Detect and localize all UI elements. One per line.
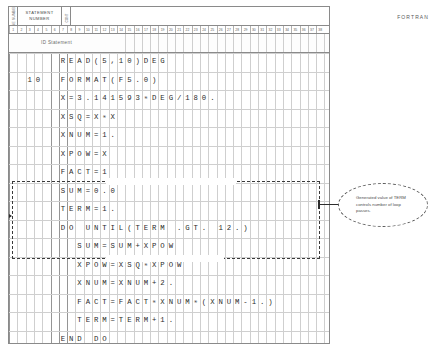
grid-column-line [258,34,259,52]
code-char: O [92,261,100,269]
code-char: 1 [100,205,108,213]
grid-column-line [192,34,193,52]
grid-column-line [225,34,226,52]
code-char: L [117,224,125,232]
code-char: M [142,316,150,324]
code-char: R [59,57,67,65]
code-char: P [67,150,75,158]
grid-row-line [9,109,329,110]
code-char: 1 [109,94,117,102]
ruler-column-number: 30 [250,27,258,33]
code-char: T [142,298,150,306]
grid-column-line [241,34,242,52]
ruler-column-number: 26 [217,27,225,33]
grid-column-line [324,34,325,52]
code-char: E [84,316,92,324]
ruler-column-number: 3 [26,27,34,33]
code-char: N [125,279,133,287]
code-char: E [150,57,158,65]
code-char: . [100,187,108,195]
ruler-column-number: 16 [134,27,142,33]
ruler-column-number: 33 [275,27,283,33]
code-char: C [134,298,142,306]
code-char: M [183,298,191,306]
grid-column-line [208,34,209,52]
grid-column-line [316,53,317,343]
code-char: A [125,298,133,306]
grid-column-line [142,34,143,52]
ruler-column-number: 20 [167,27,175,33]
code-char: = [84,187,92,195]
code-char: D [84,57,92,65]
ruler-column-number: 13 [109,27,117,33]
code-char: 1 [183,94,191,102]
grid-column-line [183,34,184,52]
grid-column-line [158,34,159,52]
header-statement-area: FORTRAN [71,6,330,26]
code-char: O [100,335,108,343]
grid-column-line [275,34,276,52]
grid-column-line [250,34,251,52]
code-char: O [67,76,75,84]
code-char: ✳ [150,298,158,305]
code-char: R [75,76,83,84]
grid-column-line [9,53,10,343]
do-loop-arrow-icon [9,214,12,218]
code-char: S [75,242,83,250]
grid-column-line [233,34,234,52]
code-char: 0 [125,57,133,65]
code-char: X [75,261,83,269]
code-char: ✳ [100,113,108,120]
code-char: X [208,298,216,306]
grid-column-line [283,34,284,52]
code-char: W [84,150,92,158]
ruler-column-number: 5 [42,27,50,33]
code-char: R [150,224,158,232]
ruler-column-number: 14 [117,27,125,33]
code-char: + [134,242,142,250]
code-char: = [109,316,117,324]
code-char: M [84,131,92,139]
code-char: . [109,131,117,139]
grid-row-line [9,238,329,239]
ruler-column-number: 4 [34,27,42,33]
code-char: T [84,168,92,176]
code-char: D [75,335,83,343]
grid-column-line [324,53,325,343]
code-char: U [92,279,100,287]
ruler-column-number: 28 [233,27,241,33]
id-statement-label: ID Statement [41,40,72,45]
grid-row-line [9,220,329,221]
code-char: G [183,224,191,232]
code-char: U [67,187,75,195]
ruler-column-number: 7 [59,27,67,33]
code-char: R [134,316,142,324]
code-char: M [100,316,108,324]
callout-text: Generated value of TERM controls number … [356,195,412,216]
code-char: 1 [100,168,108,176]
ruler-column-number: 32 [266,27,274,33]
ruler-column-number: 25 [208,27,216,33]
code-char: X [59,131,67,139]
code-char: X [59,150,67,158]
code-char: M [142,279,150,287]
code-char: + [150,279,158,287]
code-char: . [167,279,175,287]
code-char: 3 [75,94,83,102]
code-char: S [59,187,67,195]
code-char: A [75,57,83,65]
code-char: F [75,298,83,306]
code-char: E [59,335,67,343]
code-char: = [84,113,92,121]
code-char: 1 [100,131,108,139]
code-char: = [92,150,100,158]
grid-column-line [34,53,35,343]
code-char: M [84,76,92,84]
header-statement-number-cell: STATEMENT NUMBER [18,6,62,26]
grid-column-line [167,34,168,52]
ruler-column-number: 18 [150,27,158,33]
code-char: T [59,205,67,213]
code-char: F [59,76,67,84]
code-char: N [217,298,225,306]
code-char: 1 [250,298,258,306]
